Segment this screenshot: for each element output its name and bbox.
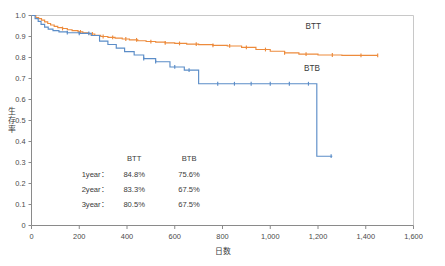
stats-value-btt: 84.8% <box>123 170 145 179</box>
y-tick-label: 0.9 <box>15 32 25 41</box>
series-lines <box>32 16 378 159</box>
y-tick-label: 0.7 <box>15 74 25 83</box>
x-tick-label: 1,200 <box>309 232 328 241</box>
series-labels: BTTBTB <box>304 22 321 73</box>
stats-col-header-btt: BTT <box>127 154 142 163</box>
chart-svg: 00.10.20.30.40.50.60.70.80.91.0 02004006… <box>0 0 445 266</box>
series-line-btt <box>32 16 378 56</box>
stats-value-btt: 80.5% <box>123 200 145 209</box>
y-tick-label: 0.4 <box>15 137 25 146</box>
x-tick-label: 1,600 <box>404 232 423 241</box>
y-axis-title: 生存率 <box>7 106 16 134</box>
x-tick-label: 400 <box>121 232 133 241</box>
x-tick-label: 600 <box>169 232 181 241</box>
x-tick-label: 800 <box>216 232 228 241</box>
series-line-btb <box>32 16 333 157</box>
stats-row-label: 2year： <box>82 185 109 194</box>
x-axis-ticks: 02004006008001,0001,2001,4001,600 <box>29 226 422 241</box>
stats-row-label: 1year： <box>82 170 109 179</box>
y-axis-ticks: 00.10.20.30.40.50.60.70.80.91.0 <box>15 11 31 230</box>
y-tick-label: 0.6 <box>15 95 25 104</box>
x-tick-label: 0 <box>29 232 33 241</box>
y-tick-label: 0.8 <box>15 53 25 62</box>
x-tick-label: 1,000 <box>261 232 280 241</box>
stats-value-btb: 67.5% <box>178 200 200 209</box>
y-tick-label: 0.5 <box>15 116 25 125</box>
x-tick-label: 1,400 <box>357 232 376 241</box>
stats-value-btt: 83.3% <box>123 185 145 194</box>
stats-annotation-table: BTTBTB1year：84.8%75.6%2year：83.3%67.5%3y… <box>82 154 200 209</box>
x-axis-title: 日数 <box>215 246 231 256</box>
axis-titles: 日数生存率 <box>7 106 231 256</box>
x-tick-label: 200 <box>73 232 85 241</box>
stats-col-header-btb: BTB <box>182 154 197 163</box>
y-tick-label: 0.1 <box>15 200 25 209</box>
stats-row-label: 3year： <box>82 200 109 209</box>
stats-value-btb: 67.5% <box>178 185 200 194</box>
y-tick-label: 1.0 <box>15 11 25 20</box>
stats-value-btb: 75.6% <box>178 170 200 179</box>
kaplan-meier-chart: 00.10.20.30.40.50.60.70.80.91.0 02004006… <box>0 0 445 266</box>
y-tick-label: 0 <box>21 221 25 230</box>
series-label-btt: BTT <box>305 22 320 31</box>
y-tick-label: 0.3 <box>15 158 25 167</box>
y-tick-label: 0.2 <box>15 179 25 188</box>
series-label-btb: BTB <box>304 64 320 73</box>
